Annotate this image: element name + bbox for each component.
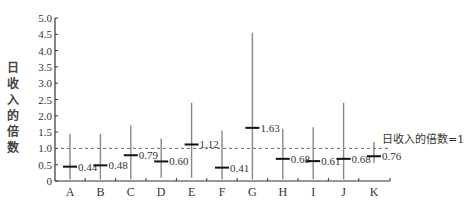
value-label: 1.12 <box>200 138 219 150</box>
value-label: 0.41 <box>230 162 249 174</box>
x-tick-label: H <box>278 185 287 199</box>
x-tick-label: G <box>248 185 257 199</box>
value-label: 0.76 <box>382 150 402 162</box>
x-tick-label: J <box>341 185 346 199</box>
value-label: 0.44 <box>78 161 98 173</box>
x-tick-label: B <box>96 185 104 199</box>
value-label: 0.61 <box>321 155 340 167</box>
y-tick-label: 0 <box>47 175 53 187</box>
x-tick-label: A <box>66 185 75 199</box>
value-label: 0.68 <box>291 153 311 165</box>
range-bar-c: 0.79 <box>124 126 159 180</box>
reference-line: 日收入的倍数=1 <box>55 132 464 148</box>
y-tick-label: 1.5 <box>38 126 52 138</box>
y-tick-label: 3.5 <box>38 61 52 73</box>
x-tick-label: E <box>188 185 195 199</box>
value-label: 0.68 <box>352 153 372 165</box>
range-bar-g: 1.63 <box>245 33 280 180</box>
y-tick-label: 0.5 <box>38 159 52 171</box>
y-tick-label: 4.5 <box>38 28 52 40</box>
range-bar-d: 0.60 <box>154 139 189 178</box>
y-tick-label: 2.5 <box>38 94 52 106</box>
y-tick-label: 5.0 <box>38 12 52 24</box>
x-tick-label: I <box>311 185 315 199</box>
range-bar-i: 0.61 <box>306 127 340 179</box>
reference-line-label: 日收入的倍数=1 <box>382 132 464 146</box>
value-label: 0.60 <box>169 155 189 167</box>
value-label: 0.79 <box>139 149 159 161</box>
y-tick-label: 2.0 <box>38 110 52 122</box>
range-bar-h: 0.68 <box>276 129 311 180</box>
x-tick-label: C <box>127 185 135 199</box>
range-chart: 00.51.01.52.02.53.03.54.04.55.0ABCDEFGHI… <box>0 0 471 210</box>
y-tick-label: 4.0 <box>38 45 52 57</box>
range-bar-e: 1.12 <box>185 103 219 178</box>
range-bars: 0.440.480.790.601.120.411.630.680.610.68… <box>63 33 402 180</box>
y-tick-label: 3.0 <box>38 77 52 89</box>
range-bar-b: 0.48 <box>93 134 128 180</box>
x-tick-label: F <box>219 185 226 199</box>
y-tick-label: 1.0 <box>38 142 52 154</box>
value-label: 0.48 <box>108 159 128 171</box>
range-bar-a: 0.44 <box>63 134 98 180</box>
range-bar-f: 0.41 <box>215 130 249 179</box>
range-bar-j: 0.68 <box>337 103 372 180</box>
x-tick-label: K <box>370 185 379 199</box>
x-tick-label: D <box>157 185 166 199</box>
value-label: 1.63 <box>260 122 280 134</box>
